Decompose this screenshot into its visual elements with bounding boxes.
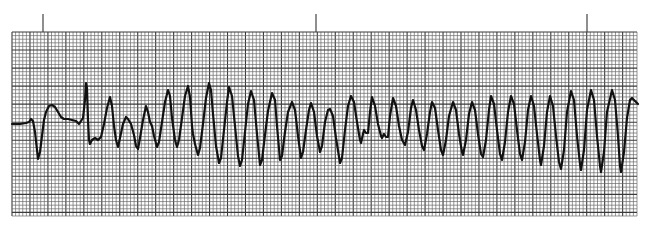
background [0, 0, 645, 226]
ecg-rhythm-strip: ECG rhythm strip [0, 0, 645, 226]
